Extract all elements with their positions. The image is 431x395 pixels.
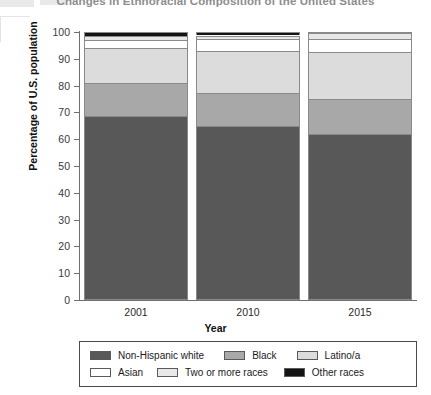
legend-swatch-black <box>224 351 245 360</box>
y-axis-tick-label: 100 <box>10 26 70 38</box>
legend-item-black[interactable]: Black <box>224 350 276 361</box>
legend-item-other-races[interactable]: Other races <box>284 367 364 378</box>
bar-2001[interactable] <box>84 32 188 300</box>
legend-swatch-non-hispanic-white <box>90 351 111 360</box>
bar-segment <box>308 99 412 134</box>
bar-segment <box>84 36 188 40</box>
bar-segment <box>84 40 188 48</box>
bar-segment <box>196 39 300 51</box>
scan-artifact <box>0 16 30 17</box>
y-axis-tick-label: 80 <box>10 80 70 92</box>
bar-segment <box>196 93 300 126</box>
y-axis-tick-label: 50 <box>10 160 70 172</box>
bar-segment <box>196 51 300 93</box>
bar-segment <box>308 32 412 33</box>
bar-segment <box>84 48 188 83</box>
legend-swatch-latino <box>297 351 318 360</box>
y-axis-tick-label: 30 <box>10 214 70 226</box>
bar-segment <box>308 52 412 99</box>
legend-label-latino: Latino/a <box>325 350 361 361</box>
legend-row-2: Asian Two or more races Other races <box>80 364 416 381</box>
legend-item-latino[interactable]: Latino/a <box>297 350 361 361</box>
bar-segment <box>308 39 412 52</box>
legend-item-asian[interactable]: Asian <box>90 367 143 378</box>
bar-2015[interactable] <box>308 32 412 300</box>
legend-label-two-or-more-races: Two or more races <box>185 367 268 378</box>
y-axis-tick-label: 20 <box>10 240 70 252</box>
x-axis-tick-label: 2001 <box>76 306 196 318</box>
x-axis-tick-label: 2010 <box>188 306 308 318</box>
x-axis-tick-label: 2015 <box>300 306 420 318</box>
legend: Non-Hispanic white Black Latino/a Asian … <box>79 341 417 387</box>
legend-swatch-other-races <box>284 368 305 377</box>
legend-row-1: Non-Hispanic white Black Latino/a <box>80 347 416 364</box>
bar-segment <box>308 134 412 300</box>
chart-title: Changes in Ethnoracial Composition of th… <box>0 0 431 7</box>
legend-item-two-or-more-races[interactable]: Two or more races <box>157 367 268 378</box>
bar-segment <box>308 33 412 38</box>
y-axis-tick-label: 60 <box>10 133 70 145</box>
legend-label-other-races: Other races <box>312 367 364 378</box>
x-axis-line <box>79 300 417 301</box>
bar-segment <box>196 126 300 300</box>
y-axis-tick-label: 40 <box>10 187 70 199</box>
y-axis-tick-label: 90 <box>10 53 70 65</box>
legend-label-black: Black <box>252 350 276 361</box>
y-axis-tick-label: 10 <box>10 267 70 279</box>
scan-artifact <box>0 16 1 42</box>
legend-label-asian: Asian <box>118 367 143 378</box>
x-axis-title: Year <box>0 322 431 334</box>
legend-swatch-asian <box>90 368 111 377</box>
y-axis-tick-label: 70 <box>10 106 70 118</box>
y-axis-tick <box>74 300 80 301</box>
bar-2010[interactable] <box>196 32 300 300</box>
y-axis-tick-label: 0 <box>10 294 70 306</box>
bar-segment <box>84 116 188 300</box>
legend-swatch-two-or-more-races <box>157 368 178 377</box>
bar-segment <box>196 32 300 35</box>
legend-label-non-hispanic-white: Non-Hispanic white <box>118 350 204 361</box>
bar-segment <box>84 83 188 117</box>
legend-item-non-hispanic-white[interactable]: Non-Hispanic white <box>90 350 204 361</box>
bar-segment <box>84 32 188 36</box>
bar-segment <box>196 36 300 40</box>
plot-area <box>80 32 416 300</box>
